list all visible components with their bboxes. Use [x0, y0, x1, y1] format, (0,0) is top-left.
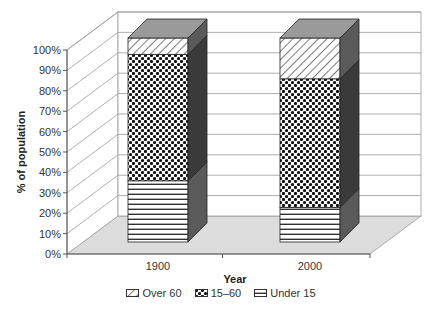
- y-tick-label: 90%: [39, 64, 61, 76]
- bar-segment-under-15: [128, 181, 188, 242]
- y-tick-label: 40%: [39, 166, 61, 178]
- chart: 190020000%10%20%30%40%50%60%70%80%90%100…: [0, 0, 442, 314]
- bar-side-face: [340, 60, 359, 208]
- x-tick-label: 1900: [146, 260, 170, 272]
- legend: Over 60 15–60 Under 15: [0, 287, 442, 299]
- y-tick-label: 70%: [39, 105, 61, 117]
- chart-walls: [67, 12, 421, 254]
- legend-label: Under 15: [270, 287, 315, 299]
- legend-item-15-60: 15–60: [195, 287, 242, 299]
- legend-label: 15–60: [211, 287, 242, 299]
- bar-segment-over-60: [128, 38, 188, 54]
- bar-segment-15-60: [280, 79, 340, 208]
- bar-segment-15-60: [128, 54, 188, 180]
- y-axis-title: % of population: [15, 110, 27, 193]
- y-tick-label: 80%: [39, 85, 61, 97]
- y-tick-label: 20%: [39, 207, 61, 219]
- diagonal-hatch-swatch-icon: [126, 289, 139, 297]
- chart-floor: [67, 216, 421, 254]
- legend-label: Over 60: [142, 287, 181, 299]
- chart-plot-area: 190020000%10%20%30%40%50%60%70%80%90%100…: [0, 0, 442, 314]
- x-tick-label: 2000: [298, 260, 322, 272]
- y-tick-label: 30%: [39, 187, 61, 199]
- bar-segment-under-15: [280, 207, 340, 242]
- bar-side-face: [188, 35, 207, 180]
- legend-item-under-15: Under 15: [254, 287, 315, 299]
- bar-1900: [128, 19, 207, 242]
- y-tick-label: 50%: [39, 146, 61, 158]
- bar-segment-over-60: [280, 38, 340, 79]
- y-tick-label: 100%: [33, 44, 61, 56]
- y-tick-label: 0%: [45, 248, 61, 260]
- y-tick-label: 60%: [39, 126, 61, 138]
- horizontal-stripes-swatch-icon: [254, 289, 267, 297]
- y-tick-label: 10%: [39, 228, 61, 240]
- dots-swatch-icon: [195, 289, 208, 297]
- bar-2000: [280, 19, 359, 242]
- legend-item-over-60: Over 60: [126, 287, 181, 299]
- x-axis-title: Year: [223, 273, 247, 285]
